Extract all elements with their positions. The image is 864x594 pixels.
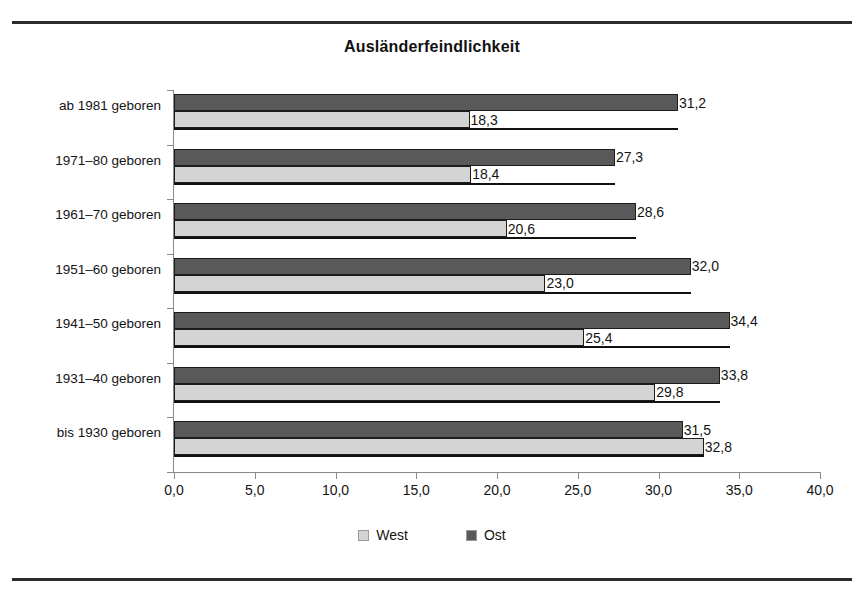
group-baseline xyxy=(174,401,720,403)
bar-west: 18,3 xyxy=(174,111,470,128)
y-axis-tick xyxy=(167,199,174,200)
x-axis-tick-label: 30,0 xyxy=(619,482,699,498)
category-group: 1941–50 geboren34,425,4 xyxy=(174,308,820,363)
group-baseline xyxy=(174,455,704,457)
category-group: 1951–60 geboren32,023,0 xyxy=(174,254,820,309)
x-axis-tick-label: 5,0 xyxy=(215,482,295,498)
chart-figure: Ausländerfeindlichkeit 0,05,010,015,020,… xyxy=(0,0,864,594)
x-axis-tick xyxy=(820,472,821,479)
x-axis-tick-label: 0,0 xyxy=(134,482,214,498)
y-axis-tick xyxy=(167,308,174,309)
category-label: 1951–60 geboren xyxy=(0,262,161,277)
bar-ost: 34,4 xyxy=(174,312,730,329)
chart-title: Ausländerfeindlichkeit xyxy=(0,38,864,56)
chart-legend: WestOst xyxy=(0,527,864,543)
y-axis-tick xyxy=(167,363,174,364)
bottom-divider-rule xyxy=(12,578,852,581)
bar-value-label: 29,8 xyxy=(656,384,683,400)
category-group: 1971–80 geboren27,318,4 xyxy=(174,145,820,200)
bar-value-label: 32,0 xyxy=(692,258,719,274)
group-baseline xyxy=(174,346,730,348)
bar-west: 32,8 xyxy=(174,438,704,455)
legend-swatch-icon xyxy=(466,530,477,541)
category-label: 1941–50 geboren xyxy=(0,316,161,331)
category-group: 1961–70 geboren28,620,6 xyxy=(174,199,820,254)
bar-ost: 33,8 xyxy=(174,367,720,384)
bar-west: 29,8 xyxy=(174,384,655,401)
group-baseline xyxy=(174,183,615,185)
x-axis-tick-label: 35,0 xyxy=(699,482,779,498)
y-axis-tick xyxy=(167,417,174,418)
y-axis-tick xyxy=(167,254,174,255)
bar-west: 23,0 xyxy=(174,275,545,292)
bar-value-label: 18,4 xyxy=(472,166,499,182)
plot-area: 0,05,010,015,020,025,030,035,040,0ab 198… xyxy=(174,90,820,472)
bar-value-label: 27,3 xyxy=(616,149,643,165)
bar-ost: 31,5 xyxy=(174,421,683,438)
top-divider-rule xyxy=(12,21,852,24)
bar-ost: 32,0 xyxy=(174,258,691,275)
bar-value-label: 23,0 xyxy=(546,275,573,291)
x-axis-tick xyxy=(174,472,175,479)
bar-ost: 27,3 xyxy=(174,149,615,166)
y-axis-tick xyxy=(167,472,174,473)
group-baseline xyxy=(174,128,678,130)
x-axis-tick xyxy=(336,472,337,479)
category-label: 1971–80 geboren xyxy=(0,153,161,168)
legend-label: West xyxy=(376,527,408,543)
x-axis-tick xyxy=(578,472,579,479)
x-axis-tick-label: 20,0 xyxy=(457,482,537,498)
bar-value-label: 28,6 xyxy=(637,204,664,220)
x-axis-tick xyxy=(255,472,256,479)
bar-west: 25,4 xyxy=(174,329,584,346)
legend-swatch-icon xyxy=(358,530,369,541)
x-axis-tick-label: 40,0 xyxy=(780,482,860,498)
x-axis-tick xyxy=(497,472,498,479)
bar-west: 18,4 xyxy=(174,166,471,183)
bar-value-label: 32,8 xyxy=(705,439,732,455)
category-group: 1931–40 geboren33,829,8 xyxy=(174,363,820,418)
legend-item-west[interactable]: West xyxy=(358,527,408,543)
legend-label: Ost xyxy=(484,527,506,543)
bar-value-label: 18,3 xyxy=(471,112,498,128)
group-baseline xyxy=(174,237,636,239)
bar-value-label: 25,4 xyxy=(585,330,612,346)
bar-value-label: 31,2 xyxy=(679,95,706,111)
x-axis-tick-label: 25,0 xyxy=(538,482,618,498)
category-label: bis 1930 geboren xyxy=(0,425,161,440)
bar-value-label: 20,6 xyxy=(508,221,535,237)
x-axis-tick-label: 10,0 xyxy=(296,482,376,498)
bar-west: 20,6 xyxy=(174,220,507,237)
bar-ost: 31,2 xyxy=(174,94,678,111)
category-label: ab 1981 geboren xyxy=(0,98,161,113)
x-axis-tick xyxy=(739,472,740,479)
bar-value-label: 33,8 xyxy=(721,367,748,383)
category-group: bis 1930 geboren31,532,8 xyxy=(174,417,820,472)
bar-value-label: 34,4 xyxy=(731,313,758,329)
category-label: 1931–40 geboren xyxy=(0,371,161,386)
y-axis-tick xyxy=(167,145,174,146)
category-group: ab 1981 geboren31,218,3 xyxy=(174,90,820,145)
legend-item-ost[interactable]: Ost xyxy=(466,527,506,543)
category-label: 1961–70 geboren xyxy=(0,207,161,222)
bar-value-label: 31,5 xyxy=(684,422,711,438)
x-axis-tick-label: 15,0 xyxy=(376,482,456,498)
x-axis-tick xyxy=(416,472,417,479)
x-axis-tick xyxy=(659,472,660,479)
group-baseline xyxy=(174,292,691,294)
y-axis-tick xyxy=(167,90,174,91)
bar-ost: 28,6 xyxy=(174,203,636,220)
